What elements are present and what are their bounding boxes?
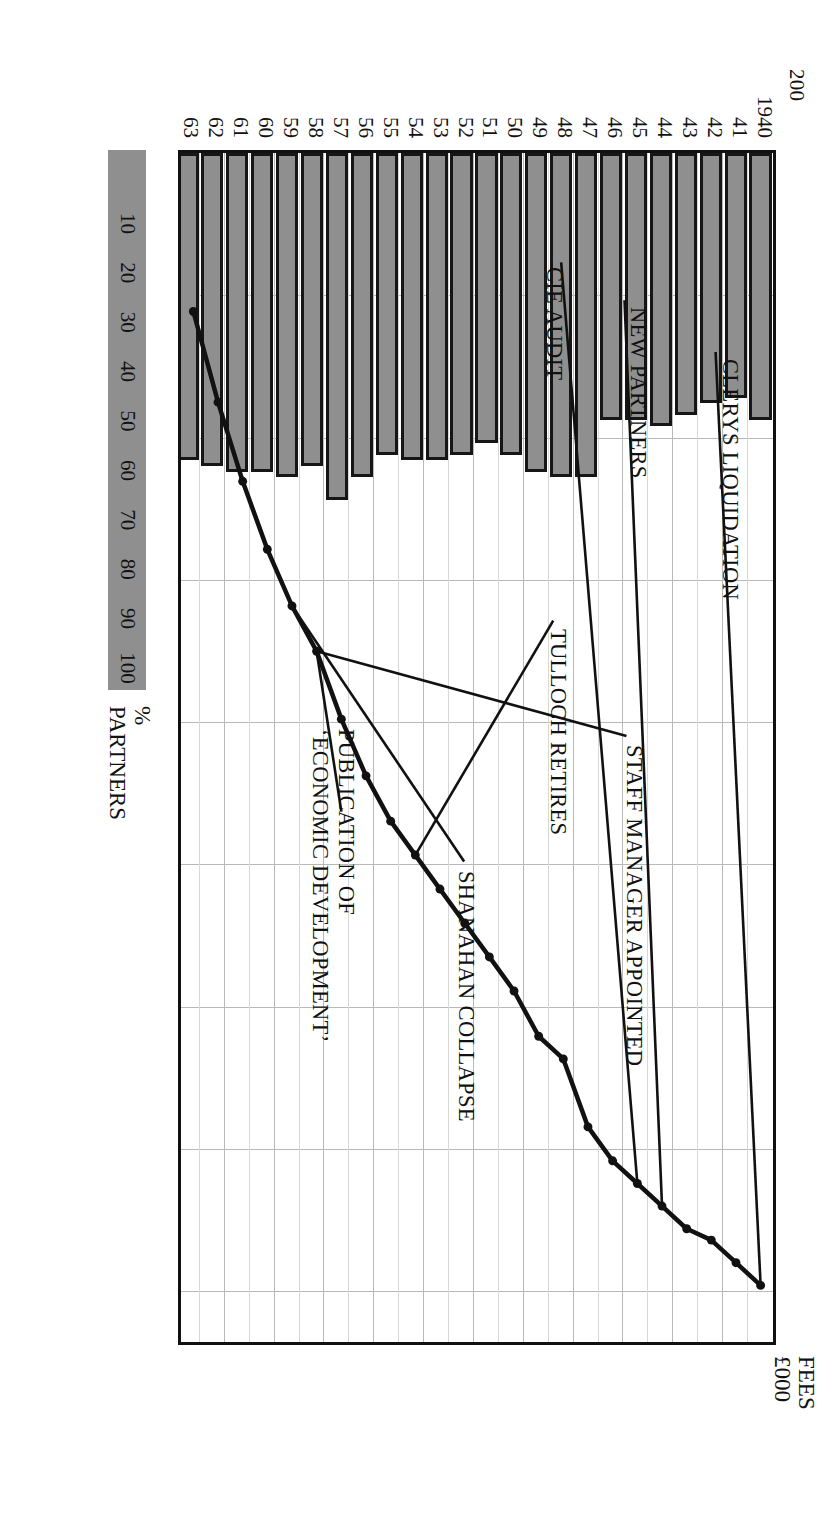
year-tick-label: 59	[278, 117, 303, 138]
partners-tick-label: 90	[115, 608, 140, 629]
partners-axis-title: % PARTNERS	[104, 706, 154, 820]
bar	[475, 153, 497, 443]
year-tick-label: 60	[253, 117, 278, 138]
partners-tick-label: 60	[115, 460, 140, 481]
year-tick-label: 50	[502, 117, 527, 138]
partners-tick-label: 70	[115, 509, 140, 530]
year-tick-label: 57	[327, 117, 352, 138]
year-tick-label: 48	[552, 117, 577, 138]
bar	[201, 153, 223, 466]
fees-tick-label: 200	[784, 69, 809, 101]
year-tick-label: 43	[676, 117, 701, 138]
chart-canvas: FEES £000 255075100125150175200 19404142…	[28, 38, 818, 1468]
year-tick-label: 56	[352, 117, 377, 138]
fees-axis-title: FEES £000	[770, 1356, 818, 1410]
bar	[251, 153, 273, 472]
year-tick-label: 44	[651, 117, 676, 138]
year-tick-label: 58	[303, 117, 328, 138]
bar	[351, 153, 373, 477]
year-tick-label: 52	[452, 117, 477, 138]
partners-tick-label: 40	[115, 361, 140, 382]
partners-axis-title-line1: %	[129, 706, 154, 820]
partners-tick-label: 10	[115, 213, 140, 234]
year-tick-label: 42	[701, 117, 726, 138]
year-tick-label: 1940	[751, 96, 776, 138]
bar	[725, 153, 747, 398]
bar-series-fees	[181, 153, 773, 1342]
bar	[450, 153, 472, 455]
year-tick-label: 61	[228, 117, 253, 138]
bar	[376, 153, 398, 455]
year-tick-label: 51	[477, 117, 502, 138]
bar	[650, 153, 672, 426]
bar	[178, 153, 199, 460]
bar	[625, 153, 647, 420]
partners-tick-label: 30	[115, 312, 140, 333]
bar	[700, 153, 722, 403]
partners-scale-strip: 102030405060708090100	[108, 150, 146, 690]
bar	[276, 153, 298, 477]
year-tick-labels: 1940414243444546474849505152535455565758…	[178, 38, 776, 146]
bar	[301, 153, 323, 466]
year-tick-label: 49	[527, 117, 552, 138]
fees-axis-title-line2: £000	[770, 1356, 794, 1410]
partners-axis-title-line2: PARTNERS	[104, 706, 129, 820]
rotated-chart-page: FEES £000 255075100125150175200 19404142…	[28, 38, 818, 1468]
year-tick-label: 45	[626, 117, 651, 138]
year-tick-label: 46	[602, 117, 627, 138]
year-tick-label: 47	[577, 117, 602, 138]
year-tick-label: 41	[726, 117, 751, 138]
bar	[575, 153, 597, 477]
bar	[675, 153, 697, 415]
bar	[600, 153, 622, 420]
bar	[550, 153, 572, 477]
bar	[226, 153, 248, 472]
year-tick-label: 53	[427, 117, 452, 138]
year-tick-label: 55	[377, 117, 402, 138]
year-tick-label: 63	[178, 117, 203, 138]
year-tick-label: 54	[402, 117, 427, 138]
partners-tick-label: 100	[115, 652, 140, 684]
partners-tick-label: 50	[115, 411, 140, 432]
bar	[326, 153, 348, 500]
partners-tick-label: 80	[115, 559, 140, 580]
bar	[401, 153, 423, 460]
bar	[426, 153, 448, 460]
bar	[500, 153, 522, 455]
bar	[749, 153, 771, 420]
year-tick-label: 62	[203, 117, 228, 138]
fees-axis-title-line1: FEES	[794, 1356, 818, 1410]
bar	[525, 153, 547, 472]
partners-tick-label: 20	[115, 262, 140, 283]
plot-area: CLERYS LIQUIDATION NEW PARTNERS CIE AUDI…	[178, 150, 776, 1345]
